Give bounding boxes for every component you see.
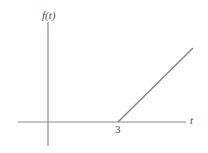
y-axis-label: f(t) [42, 10, 55, 21]
plot-canvas [0, 0, 208, 153]
x-axis-label: t [190, 115, 193, 126]
ramp-function-figure: f(t) t 3 [0, 0, 208, 153]
x-tick-label-3: 3 [115, 124, 121, 135]
ramp-line-segment [118, 48, 193, 122]
